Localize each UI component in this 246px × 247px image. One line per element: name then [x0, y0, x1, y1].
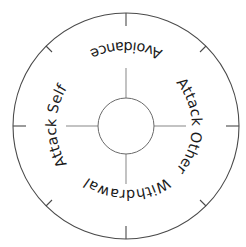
compass-of-shame-diagram: Avoidance Attack Other Withdrawal Attack… — [0, 0, 246, 247]
inner-circle — [98, 98, 154, 154]
wheel-svg: Avoidance Attack Other Withdrawal Attack… — [0, 0, 246, 247]
